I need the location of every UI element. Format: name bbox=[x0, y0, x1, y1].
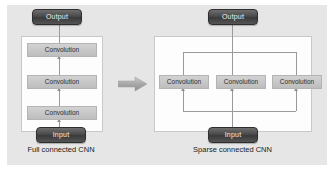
left-input-node[interactable]: Input bbox=[36, 127, 86, 143]
left-output-node[interactable]: Output bbox=[32, 9, 82, 25]
figure-canvas: Output Convolution Convolution Convoluti… bbox=[0, 0, 334, 170]
right-lower-bus-line bbox=[183, 111, 296, 112]
right-upper-bus-line bbox=[183, 52, 296, 53]
right-upper-left-branch bbox=[183, 52, 184, 75]
left-conv-layer-2[interactable]: Convolution bbox=[27, 75, 97, 89]
left-conv-layer-1[interactable]: Convolution bbox=[27, 43, 97, 57]
sparse-connected-caption: Sparse connected CNN bbox=[160, 145, 305, 154]
right-input-node[interactable]: Input bbox=[208, 127, 258, 143]
right-upper-right-branch bbox=[296, 52, 297, 75]
right-arrow-icon bbox=[118, 76, 148, 92]
right-conv-layer-1[interactable]: Convolution bbox=[159, 75, 209, 89]
right-conv-layer-3[interactable]: Convolution bbox=[272, 75, 322, 89]
full-connected-caption: Full connected CNN bbox=[12, 145, 110, 154]
right-conv-layer-2[interactable]: Convolution bbox=[216, 75, 266, 89]
right-output-node[interactable]: Output bbox=[208, 9, 258, 25]
left-conv-layer-3[interactable]: Convolution bbox=[27, 106, 97, 120]
